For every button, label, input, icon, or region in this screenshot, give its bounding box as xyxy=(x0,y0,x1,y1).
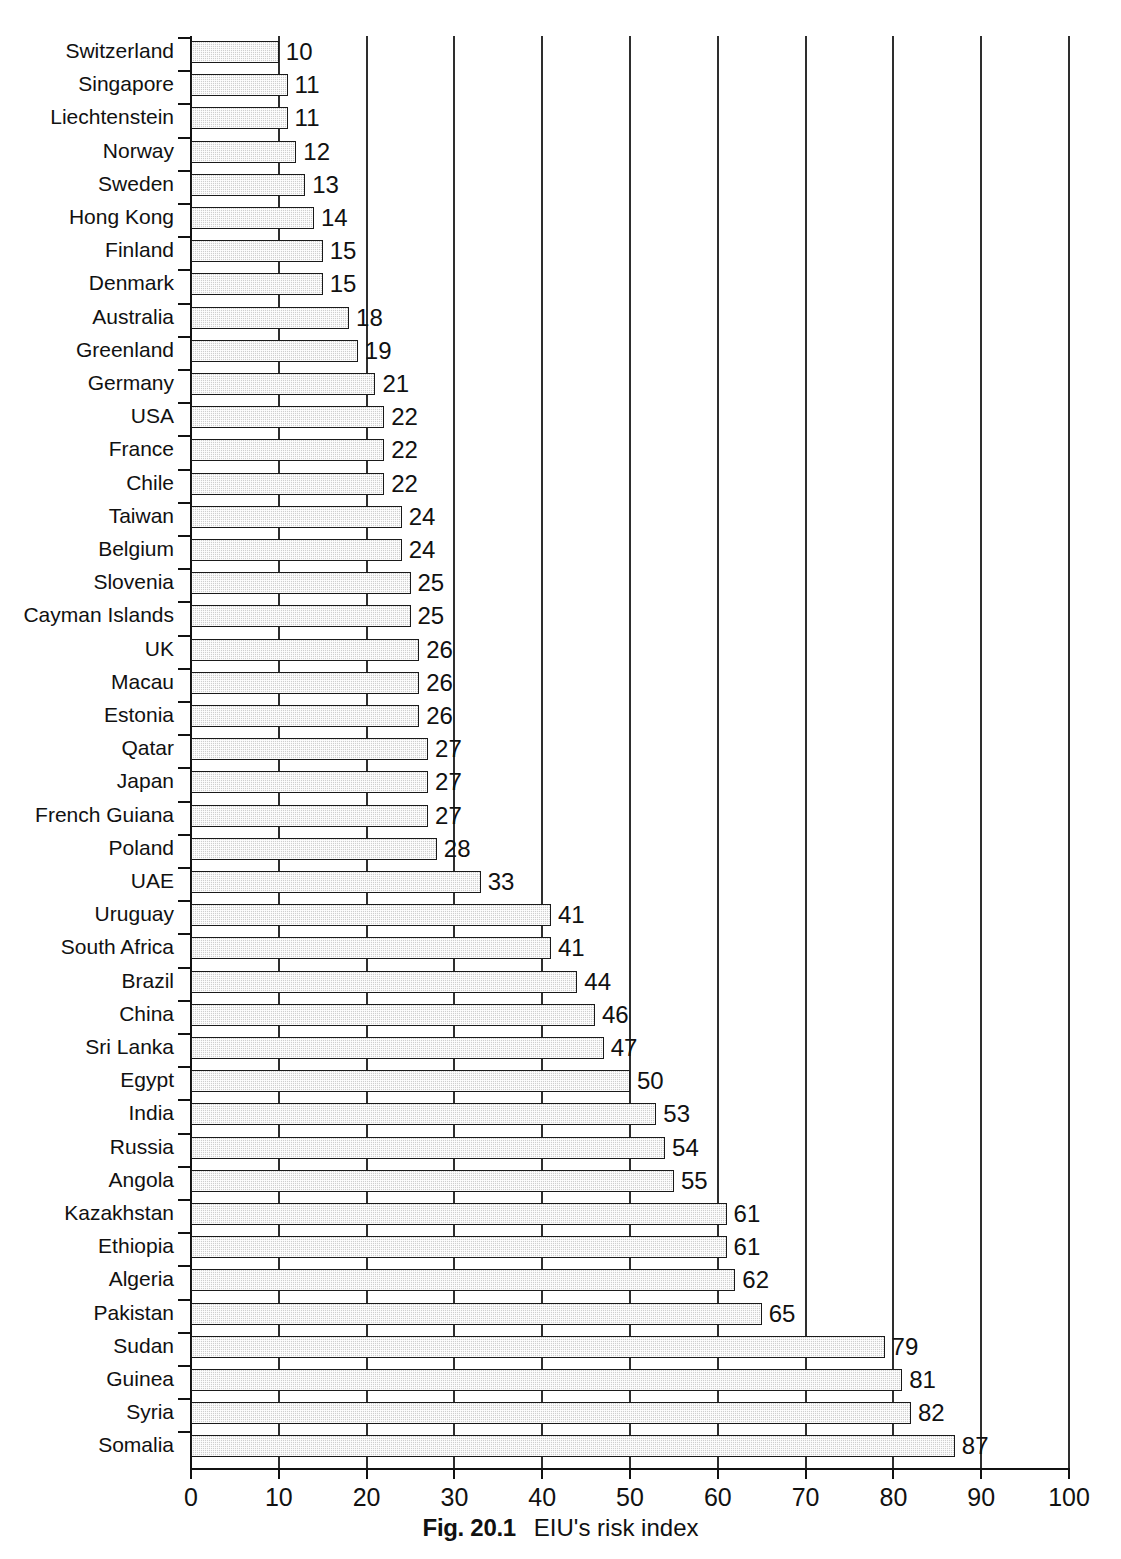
y-axis-tick xyxy=(178,933,191,935)
y-axis-tick xyxy=(178,668,191,670)
x-tick-label-0: 0 xyxy=(184,1482,198,1512)
bar xyxy=(191,41,279,63)
x-tick-label-10: 10 xyxy=(265,1482,293,1512)
bar-row: Sri Lanka47 xyxy=(0,1032,1121,1065)
bar xyxy=(191,107,288,129)
y-axis-tick xyxy=(178,1332,191,1334)
bar-row: Qatar27 xyxy=(0,733,1121,766)
category-label-singapore: Singapore xyxy=(0,70,174,97)
category-label-germany: Germany xyxy=(0,369,174,396)
x-tick-100 xyxy=(1068,1468,1070,1479)
y-axis-tick xyxy=(178,1232,191,1234)
bar xyxy=(191,1170,674,1192)
bar-row: Slovenia25 xyxy=(0,567,1121,600)
x-tick-70 xyxy=(805,1468,807,1479)
bar xyxy=(191,1137,665,1159)
bar xyxy=(191,805,428,827)
bar xyxy=(191,406,384,428)
bar xyxy=(191,639,419,661)
bar-value-label: 25 xyxy=(418,602,445,630)
bar-row: Russia54 xyxy=(0,1132,1121,1165)
bar-value-label: 41 xyxy=(558,934,585,962)
bar xyxy=(191,340,358,362)
bar-value-label: 62 xyxy=(742,1266,769,1294)
category-label-japan: Japan xyxy=(0,767,174,794)
bar xyxy=(191,1037,604,1059)
bar-value-label: 26 xyxy=(426,636,453,664)
bar-value-label: 26 xyxy=(426,669,453,697)
category-label-usa: USA xyxy=(0,402,174,429)
bar xyxy=(191,904,551,926)
y-axis-tick xyxy=(178,1000,191,1002)
bar-value-label: 21 xyxy=(382,370,409,398)
bar-row: Macau26 xyxy=(0,667,1121,700)
x-tick-60 xyxy=(717,1468,719,1479)
bar-value-label: 33 xyxy=(488,868,515,896)
bar-row: Algeria62 xyxy=(0,1264,1121,1297)
bar-row: Germany21 xyxy=(0,368,1121,401)
bar-row: UK26 xyxy=(0,634,1121,667)
bar-row: Brazil44 xyxy=(0,966,1121,999)
bar-value-label: 53 xyxy=(663,1100,690,1128)
category-label-sudan: Sudan xyxy=(0,1332,174,1359)
bar-value-label: 26 xyxy=(426,702,453,730)
category-label-kazakhstan: Kazakhstan xyxy=(0,1199,174,1226)
x-tick-label-90: 90 xyxy=(967,1482,995,1512)
bar-row: Liechtenstein11 xyxy=(0,102,1121,135)
x-tick-20 xyxy=(366,1468,368,1479)
bar-value-label: 27 xyxy=(435,735,462,763)
category-label-uruguay: Uruguay xyxy=(0,900,174,927)
bar-value-label: 65 xyxy=(769,1300,796,1328)
bar-value-label: 44 xyxy=(584,968,611,996)
bar-value-label: 87 xyxy=(962,1432,989,1460)
bar-row: French Guiana27 xyxy=(0,800,1121,833)
bar xyxy=(191,506,402,528)
bar xyxy=(191,1004,595,1026)
y-axis-tick xyxy=(178,435,191,437)
category-label-pakistan: Pakistan xyxy=(0,1299,174,1326)
bar-row: Chile22 xyxy=(0,468,1121,501)
bar-row: South Africa41 xyxy=(0,932,1121,965)
y-axis-tick xyxy=(178,1365,191,1367)
y-axis-tick xyxy=(178,834,191,836)
bar-value-label: 19 xyxy=(365,337,392,365)
y-axis-tick xyxy=(178,336,191,338)
y-axis-tick xyxy=(178,103,191,105)
bar xyxy=(191,738,428,760)
bar xyxy=(191,373,375,395)
category-label-russia: Russia xyxy=(0,1133,174,1160)
x-tick-10 xyxy=(278,1468,280,1479)
bar-row: Pakistan65 xyxy=(0,1298,1121,1331)
bar-value-label: 15 xyxy=(330,237,357,265)
figure-caption-text: EIU's risk index xyxy=(534,1514,699,1541)
bar-row: Switzerland10 xyxy=(0,36,1121,69)
bar-row: China46 xyxy=(0,999,1121,1032)
bar-row: Taiwan24 xyxy=(0,501,1121,534)
y-axis-tick xyxy=(178,502,191,504)
bar-value-label: 24 xyxy=(409,503,436,531)
y-axis-tick xyxy=(178,1166,191,1168)
category-label-greenland: Greenland xyxy=(0,336,174,363)
category-label-syria: Syria xyxy=(0,1398,174,1425)
category-label-switzerland: Switzerland xyxy=(0,37,174,64)
bar-value-label: 46 xyxy=(602,1001,629,1029)
bar-row: UAE33 xyxy=(0,866,1121,899)
bar-value-label: 47 xyxy=(611,1034,638,1062)
bar xyxy=(191,871,481,893)
category-label-sweden: Sweden xyxy=(0,170,174,197)
bar-row: Hong Kong14 xyxy=(0,202,1121,235)
category-label-liechtenstein: Liechtenstein xyxy=(0,103,174,130)
bar-value-label: 28 xyxy=(444,835,471,863)
bar-value-label: 50 xyxy=(637,1067,664,1095)
bar-value-label: 55 xyxy=(681,1167,708,1195)
bar-value-label: 79 xyxy=(892,1333,919,1361)
bar xyxy=(191,1203,727,1225)
category-label-south-africa: South Africa xyxy=(0,933,174,960)
bar-value-label: 61 xyxy=(734,1200,761,1228)
x-tick-80 xyxy=(892,1468,894,1479)
bar xyxy=(191,1303,762,1325)
bar-value-label: 12 xyxy=(303,138,330,166)
bar-value-label: 22 xyxy=(391,470,418,498)
bar-value-label: 22 xyxy=(391,403,418,431)
category-label-french-guiana: French Guiana xyxy=(0,801,174,828)
